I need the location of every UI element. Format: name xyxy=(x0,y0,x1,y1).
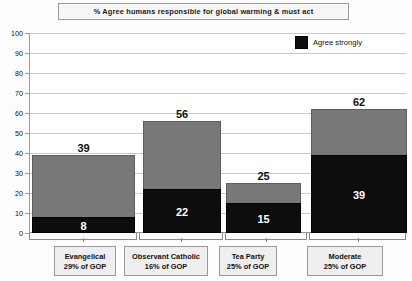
gridline xyxy=(30,33,406,34)
y-axis: 0102030405060708090100 xyxy=(0,33,27,233)
category-box-1: Evangelical29% of GOP xyxy=(54,246,116,276)
y-axis-tick-label: 0 xyxy=(19,229,23,238)
bar-4 xyxy=(311,109,407,233)
page-title: % Agree humans responsible for global wa… xyxy=(94,7,314,16)
y-axis-tick-label: 20 xyxy=(15,189,23,198)
chart-container: % Agree humans responsible for global wa… xyxy=(0,0,412,281)
chart-title-box: % Agree humans responsible for global wa… xyxy=(58,3,349,20)
chart-legend: Agree strongly xyxy=(295,36,362,49)
bracket-stem xyxy=(266,238,267,242)
category-sublabel: 16% of GOP xyxy=(145,262,187,271)
category-sublabel: 25% of GOP xyxy=(227,262,269,271)
y-axis-tick-label: 50 xyxy=(15,129,23,138)
category-bracket-2 xyxy=(139,233,223,240)
category-name: Moderate xyxy=(329,252,362,261)
y-axis-tick-label: 40 xyxy=(15,149,23,158)
bar-strongly-label: 8 xyxy=(32,220,135,232)
y-axis-tick-label: 10 xyxy=(15,209,23,218)
plot-area: 398562225156239 xyxy=(29,33,406,233)
category-sublabel: 25% of GOP xyxy=(324,262,366,271)
category-name: Observant Catholic xyxy=(132,252,200,261)
category-sublabel: 29% of GOP xyxy=(64,262,106,271)
category-bracket-3 xyxy=(225,233,307,240)
legend-swatch-agree-strongly xyxy=(295,36,308,49)
bracket-stem xyxy=(358,238,359,242)
bracket-stem xyxy=(181,238,182,242)
category-box-2: Observant Catholic16% of GOP xyxy=(124,246,208,276)
bar-3 xyxy=(226,183,301,233)
bar-total-label: 25 xyxy=(226,170,301,182)
bar-total-label: 56 xyxy=(143,108,221,120)
bar-strongly-label: 22 xyxy=(143,206,221,218)
category-box-3: Tea Party25% of GOP xyxy=(219,246,277,276)
gridline xyxy=(30,53,406,54)
gridline xyxy=(30,73,406,74)
bracket-stem xyxy=(83,238,84,242)
y-axis-tick-label: 90 xyxy=(15,49,23,58)
category-box-4: Moderate25% of GOP xyxy=(307,246,383,276)
bar-total-label: 62 xyxy=(311,96,407,108)
y-axis-tick-label: 70 xyxy=(15,89,23,98)
category-name: Tea Party xyxy=(232,252,265,261)
y-axis-tick-label: 100 xyxy=(11,29,23,38)
gridline xyxy=(30,93,406,94)
category-name: Evangelical xyxy=(65,252,106,261)
y-axis-tick-label: 80 xyxy=(15,69,23,78)
bar-total-label: 39 xyxy=(32,142,135,154)
bar-strongly-label: 15 xyxy=(226,213,301,225)
category-brackets xyxy=(29,233,406,243)
category-bracket-4 xyxy=(309,233,406,240)
category-bracket-1 xyxy=(29,233,137,240)
y-axis-tick-label: 30 xyxy=(15,169,23,178)
legend-label-agree-strongly: Agree strongly xyxy=(313,38,362,47)
bar-strongly-label: 39 xyxy=(311,189,407,201)
y-axis-tick-label: 60 xyxy=(15,109,23,118)
